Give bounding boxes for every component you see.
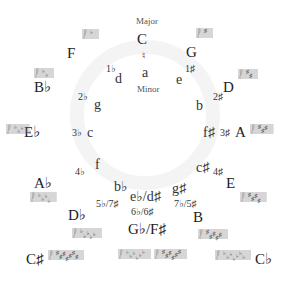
- minor-key-label: c♯: [196, 161, 209, 175]
- key-signature-staff-icon: ♭: [82, 27, 99, 39]
- svg-text:♯: ♯: [75, 254, 78, 260]
- key-signature-count: 7♭/5♯: [174, 199, 197, 209]
- svg-text:♭: ♭: [242, 254, 245, 260]
- key-signature-staff-icon: ♯: [196, 26, 213, 38]
- key-signature-staff-icon: ♭♭♭♭♭♭: [118, 247, 151, 259]
- svg-text:♯: ♯: [204, 28, 207, 34]
- svg-text:♭: ♭: [142, 249, 145, 255]
- minor-key-label: a: [142, 66, 148, 80]
- key-signature-count: 1♯: [185, 64, 195, 74]
- major-key-label: B: [193, 210, 203, 225]
- minor-key-label: f: [95, 158, 100, 172]
- key-signature-count: 2♯: [213, 92, 223, 102]
- key-signature-staff-icon: ♯♯: [238, 67, 258, 79]
- svg-text:♯: ♯: [258, 198, 261, 204]
- key-signature-staff-icon: ♯♯♯: [250, 122, 274, 134]
- minor-key-label: e: [176, 73, 182, 87]
- key-signature-staff-icon: ♭♭♭♭♭♭♭: [215, 248, 251, 260]
- svg-text:♭: ♭: [20, 125, 23, 131]
- svg-text:♭: ♭: [48, 198, 51, 204]
- svg-text:♯: ♯: [219, 232, 222, 238]
- key-signature-staff-icon: ♭♭♭♭: [30, 190, 57, 202]
- key-signature-staff-icon: ♭♭: [34, 66, 54, 78]
- key-signature-staff-icon: ♯♯♯♯♯♯♯: [48, 248, 84, 260]
- major-key-label: G: [186, 45, 197, 60]
- key-signature-count: 3♯: [220, 128, 230, 138]
- minor-caption: Minor: [137, 85, 160, 94]
- svg-text:♭: ♭: [90, 29, 93, 35]
- major-key-label: B♭: [34, 80, 51, 95]
- minor-key-label: c: [87, 126, 93, 140]
- major-key-label: A: [235, 125, 246, 140]
- major-key-label: D♭: [68, 208, 86, 223]
- major-key-label: E: [226, 176, 235, 191]
- key-signature-staff-icon: ♯♯♯♯♯: [198, 227, 228, 239]
- svg-text:♭: ♭: [93, 231, 96, 237]
- key-signature-count: 2♭: [78, 92, 88, 102]
- major-caption: Major: [136, 17, 158, 26]
- minor-key-label: b♭: [114, 180, 128, 194]
- minor-key-label: b: [196, 99, 203, 113]
- major-key-label: C♭: [255, 252, 272, 267]
- svg-text:♯: ♯: [178, 249, 181, 255]
- major-key-label: C♯: [26, 252, 44, 267]
- svg-text:♭: ♭: [45, 72, 48, 78]
- key-signature-count: 6♭/6♯: [131, 207, 154, 217]
- minor-key-label: f♯: [203, 126, 215, 140]
- major-key-label: A♭: [34, 176, 52, 191]
- major-key-label: C: [137, 32, 147, 47]
- svg-text:♯: ♯: [264, 125, 267, 131]
- key-signature-staff-icon: ♭♭♭: [6, 122, 30, 134]
- key-signature-count: 1♭: [106, 64, 116, 74]
- minor-key-label: g♯: [172, 182, 186, 196]
- key-signature-staff-icon: ♯♯♯♯♯♯: [154, 247, 187, 259]
- minor-key-label: g: [94, 98, 101, 112]
- svg-text:♯: ♯: [249, 73, 252, 79]
- key-signature-staff-icon: ♯♯♯♯: [240, 190, 267, 202]
- minor-key-label: d: [115, 72, 122, 86]
- major-key-label: G♭/F♯: [128, 222, 166, 237]
- key-signature-count: 4♭: [75, 167, 85, 177]
- major-key-label: D: [223, 80, 234, 95]
- key-signature-count: 5♭/7♯: [96, 199, 119, 209]
- major-key-label: F: [67, 46, 75, 61]
- minor-key-label: e♭/d♯: [130, 190, 161, 204]
- key-signature-count: 3♭: [72, 128, 82, 138]
- key-signature-count: 4♯: [213, 167, 223, 177]
- natural-sign: ♮: [142, 51, 146, 61]
- key-signature-staff-icon: ♭♭♭♭♭: [72, 226, 102, 238]
